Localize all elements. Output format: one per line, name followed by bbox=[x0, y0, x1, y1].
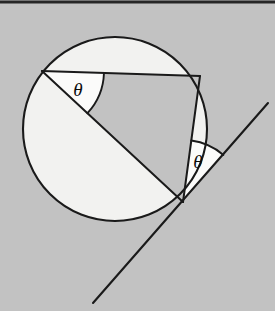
inscribed-angle-label: θ bbox=[73, 79, 82, 100]
diagram-canvas: θ θ bbox=[0, 0, 275, 311]
geometry-figure: θ θ bbox=[0, 0, 275, 311]
tangent-chord-angle-label: θ bbox=[193, 151, 202, 172]
